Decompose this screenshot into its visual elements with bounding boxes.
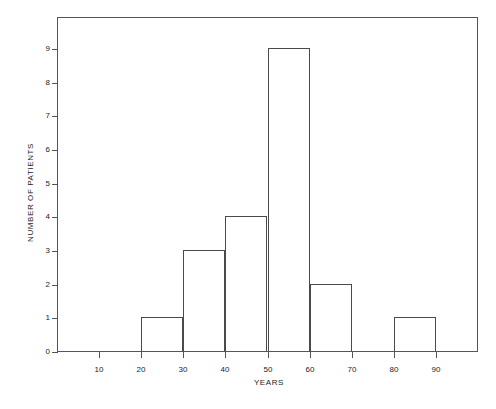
- y-axis-tick-label: 4: [34, 213, 50, 221]
- histogram-bar: [310, 284, 352, 351]
- y-axis-tick-label: 6: [34, 146, 50, 154]
- x-axis-tick-label: 60: [298, 366, 322, 374]
- x-axis-tick: [310, 352, 311, 358]
- x-axis-tick-label: 90: [424, 366, 448, 374]
- histogram-figure: NUMBER OF PATIENTS YEARS 012345678910203…: [0, 0, 496, 409]
- histogram-bar: [394, 317, 436, 351]
- x-axis-title: YEARS: [0, 378, 496, 387]
- x-axis-tick: [183, 352, 184, 358]
- x-axis-tick-label: 20: [129, 366, 153, 374]
- x-axis-tick: [268, 352, 269, 358]
- y-axis-tick-label: 1: [34, 314, 50, 322]
- x-axis-tick-label: 80: [382, 366, 406, 374]
- x-axis-tick: [436, 352, 437, 358]
- y-axis-tick: [52, 83, 58, 84]
- x-axis-tick: [225, 352, 226, 358]
- y-axis-tick-label: 7: [34, 112, 50, 120]
- y-axis-tick-label: 0: [34, 348, 50, 356]
- y-axis-tick: [52, 217, 58, 218]
- histogram-bar: [183, 250, 225, 351]
- y-axis-tick: [52, 285, 58, 286]
- y-axis-tick-label: 3: [34, 247, 50, 255]
- x-axis-tick-label: 40: [213, 366, 237, 374]
- y-axis-tick: [52, 150, 58, 151]
- y-axis-tick: [52, 184, 58, 185]
- x-axis-tick: [141, 352, 142, 358]
- x-axis-tick: [394, 352, 395, 358]
- x-axis-tick-label: 10: [87, 366, 111, 374]
- x-axis-tick-label: 30: [171, 366, 195, 374]
- x-axis-tick: [99, 352, 100, 358]
- y-axis-tick: [52, 251, 58, 252]
- plot-area: [57, 17, 478, 352]
- histogram-bar: [141, 317, 183, 351]
- y-axis-tick-label: 2: [34, 281, 50, 289]
- y-axis-tick-label: 8: [34, 79, 50, 87]
- x-axis-tick-label: 50: [256, 366, 280, 374]
- y-axis-tick: [52, 116, 58, 117]
- y-axis-title: NUMBER OF PATIENTS: [26, 118, 35, 268]
- histogram-bar: [225, 216, 267, 351]
- y-axis-tick: [52, 318, 58, 319]
- y-axis-tick-label: 9: [34, 45, 50, 53]
- x-axis-title-text: YEARS: [254, 378, 284, 387]
- y-axis-tick: [52, 352, 58, 353]
- x-axis-tick: [352, 352, 353, 358]
- histogram-bar: [268, 48, 310, 351]
- y-axis-tick-label: 5: [34, 180, 50, 188]
- y-axis-tick: [52, 49, 58, 50]
- x-axis-tick-label: 70: [340, 366, 364, 374]
